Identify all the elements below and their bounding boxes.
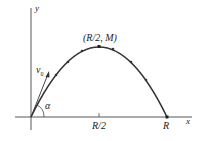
apex-label: (R/2, M) [83,33,117,43]
half-range-label: R/2 [92,121,106,131]
x-axis-label: x [186,117,190,126]
apex-point [98,45,101,48]
trajectory-curve [31,47,167,117]
velocity-label: v0 [36,65,43,77]
projectile-diagram: y x (R/2, M) R/2 R v0 α [0,0,201,141]
angle-label: α [45,101,50,111]
velocity-subscript: 0 [40,71,43,77]
range-label: R [163,121,169,131]
angle-arc [37,105,44,117]
y-axis-label: y [35,4,39,13]
range-point [166,116,169,119]
velocity-arrowhead [46,71,50,78]
